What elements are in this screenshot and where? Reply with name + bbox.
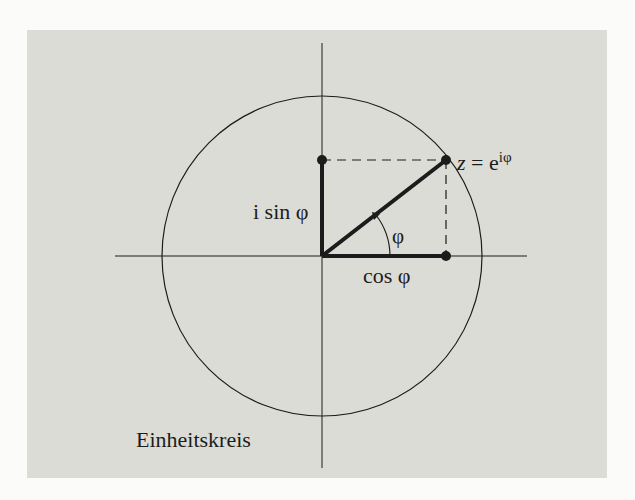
point-sin-dot xyxy=(317,155,327,165)
caption-einheitskreis: Einheitskreis xyxy=(136,427,251,452)
unit-circle-diagram: z = eiφ i sin φ φ cos φ Einheitskreis xyxy=(0,0,635,500)
point-z-dot xyxy=(441,155,451,165)
imaginary-part-label: i sin φ xyxy=(253,199,308,224)
real-part-label: cos φ xyxy=(363,263,411,288)
point-z-exponent: iφ xyxy=(499,149,512,165)
radius-vector-z xyxy=(322,160,446,256)
point-z-label: z = eiφ xyxy=(456,149,512,175)
point-cos-dot xyxy=(441,251,451,261)
angle-label: φ xyxy=(392,224,404,248)
angle-arc xyxy=(376,215,390,256)
